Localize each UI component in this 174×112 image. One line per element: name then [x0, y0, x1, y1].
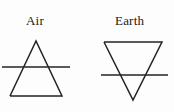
alchemical-symbols-figure: Air Earth: [0, 0, 174, 112]
earth-alchemical-symbol-icon: [0, 0, 174, 112]
symbol-group-earth: Earth: [0, 0, 174, 112]
earth-triangle-outline: [104, 42, 162, 100]
